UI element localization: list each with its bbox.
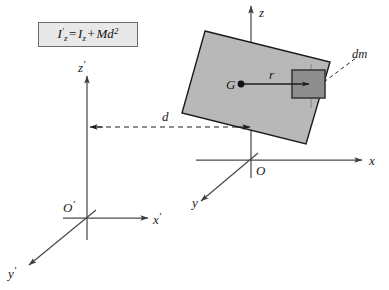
yprime-axis bbox=[29, 210, 96, 265]
yprime-axis-label: y′ bbox=[8, 266, 16, 280]
yprime-mark: ′ bbox=[14, 265, 16, 276]
zprime-mark: ′ bbox=[83, 59, 85, 70]
y-axis-label: y bbox=[192, 196, 198, 209]
center-of-mass-label: G bbox=[226, 78, 235, 91]
formula-lhs-sub: z bbox=[64, 33, 68, 43]
origin-label: O bbox=[256, 164, 265, 177]
origin-prime-label: O′ bbox=[63, 200, 75, 214]
formula-mass: M bbox=[96, 26, 107, 41]
xprime-axis-label: x′ bbox=[153, 212, 161, 226]
primed-coordinate-frame bbox=[29, 76, 148, 265]
parallel-axis-theorem-figure: I′z=Iz+Md2 z′ O′ x′ y′ z O x y G r d dm bbox=[0, 0, 389, 290]
radius-label: r bbox=[269, 68, 274, 81]
formula-distance: d bbox=[107, 26, 114, 41]
center-of-mass-dot bbox=[238, 81, 245, 88]
formula-equals: = bbox=[68, 26, 78, 41]
xprime-mark: ′ bbox=[159, 211, 161, 222]
z-axis-label: z bbox=[259, 6, 264, 19]
zprime-axis-label: z′ bbox=[78, 60, 85, 74]
parallel-axis-formula: I′z=Iz+Md2 bbox=[58, 26, 119, 43]
formula-plus: + bbox=[86, 26, 96, 41]
x-axis-label: x bbox=[369, 154, 375, 167]
distance-label: d bbox=[162, 110, 169, 123]
mass-element-label: dm bbox=[352, 48, 367, 61]
origin-prime-mark: ′ bbox=[72, 199, 74, 210]
formula-exponent: 2 bbox=[114, 26, 119, 36]
formula-box: I′z=Iz+Md2 bbox=[38, 22, 138, 47]
